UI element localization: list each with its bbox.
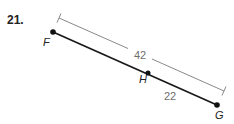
measure-hg: 22 (164, 90, 176, 102)
label-f: F (43, 36, 51, 48)
label-h: H (139, 73, 147, 85)
problem-number: 21. (7, 13, 24, 27)
label-g: G (215, 109, 224, 121)
segment-fg (53, 32, 217, 105)
segment-diagram: 21. 42 F H G 22 (0, 0, 234, 124)
point-f (50, 29, 56, 35)
measure-fg: 42 (134, 49, 146, 61)
dimension-tick-start (57, 14, 61, 23)
point-g (214, 102, 220, 108)
dimension-tick-end (222, 87, 226, 96)
